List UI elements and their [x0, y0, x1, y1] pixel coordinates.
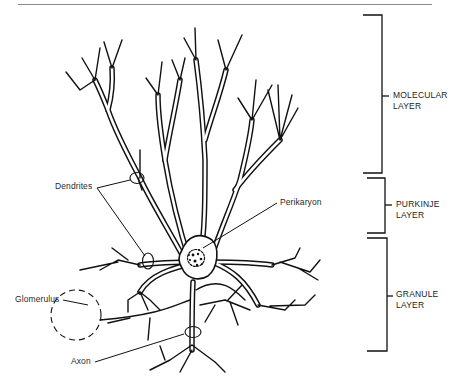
layer-label-purkinje-line2: LAYER — [396, 210, 440, 221]
label-glomerulus: Glomerulus — [15, 294, 59, 304]
layer-label-molecular-line2: LAYER — [393, 101, 448, 112]
label-dendrites: Dendrites — [55, 181, 92, 191]
layer-label-granule-line2: LAYER — [396, 300, 439, 311]
granule-bracket — [367, 238, 387, 351]
label-axon: Axon — [71, 356, 91, 366]
purkinje-bracket — [367, 178, 385, 233]
molecular-bracket — [363, 15, 382, 173]
layer-label-granule-line1: GRANULE — [396, 289, 439, 300]
label-perikaryon: Perikaryon — [280, 197, 322, 207]
layer-brackets — [363, 15, 393, 351]
layer-label-molecular: MOLECULAR LAYER — [393, 90, 448, 112]
layer-label-purkinje-line1: PURKINJE — [396, 199, 440, 210]
layer-label-molecular-line1: MOLECULAR — [393, 90, 448, 101]
layer-label-granule: GRANULE LAYER — [396, 289, 439, 311]
layer-label-purkinje: PURKINJE LAYER — [396, 199, 440, 221]
